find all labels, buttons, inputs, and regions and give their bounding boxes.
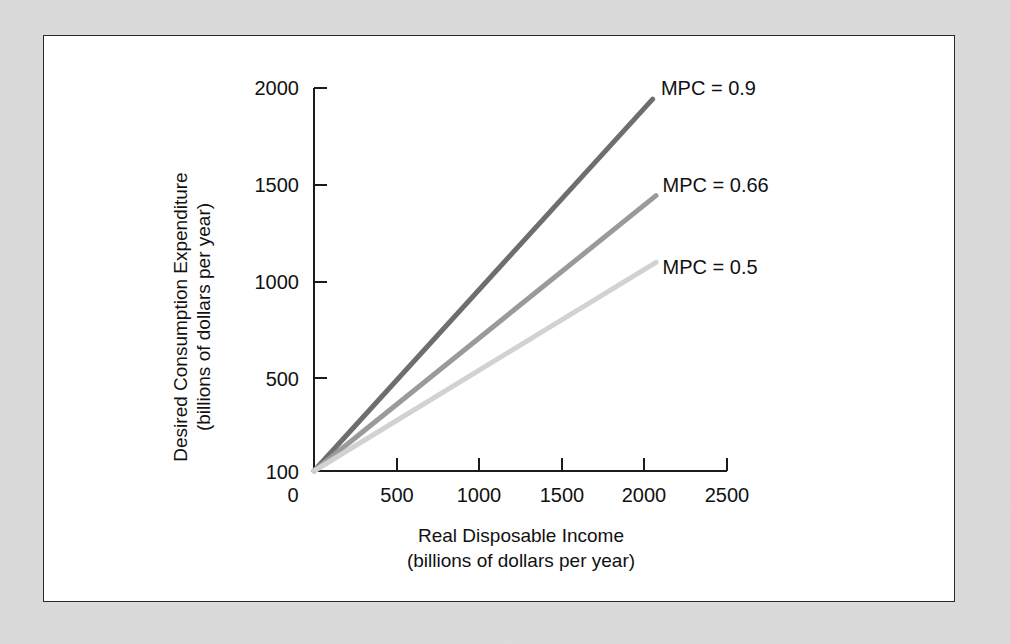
series-label-mpc-0-9: MPC = 0.9: [661, 77, 756, 99]
x-axis-title-line2: (billions of dollars per year): [407, 550, 635, 571]
y-tick-label-100: 100: [266, 461, 299, 483]
x-tick-label-0: 0: [287, 484, 298, 506]
y-tick-label-1500: 1500: [255, 174, 300, 196]
figure-panel: Desired Consumption Expenditure (billion…: [43, 35, 955, 602]
x-tick-label-500: 500: [380, 484, 413, 506]
series-line-mpc-0-5: [314, 262, 656, 471]
series-label-mpc-0-5: MPC = 0.5: [663, 256, 758, 278]
y-tick-label-2000: 2000: [255, 77, 300, 99]
chart-plot-area: Desired Consumption Expenditure (billion…: [44, 36, 954, 601]
x-tick-label-2000: 2000: [622, 484, 667, 506]
y-axis-title-line2: (billions of dollars per year): [193, 203, 214, 431]
consumption-function-chart: Desired Consumption Expenditure (billion…: [44, 36, 956, 603]
y-axis-title-line1: Desired Consumption Expenditure: [170, 172, 191, 461]
x-tick-label-1000: 1000: [457, 484, 502, 506]
series-line-mpc-0-66: [314, 196, 656, 471]
x-tick-label-1500: 1500: [540, 484, 585, 506]
screenshot-root: Desired Consumption Expenditure (billion…: [0, 0, 1010, 644]
x-axis-title-line1: Real Disposable Income: [418, 525, 624, 546]
y-tick-label-500: 500: [266, 368, 299, 390]
y-tick-label-1000: 1000: [255, 271, 300, 293]
series-label-mpc-0-66: MPC = 0.66: [663, 174, 769, 196]
x-tick-label-2500: 2500: [705, 484, 750, 506]
series-line-mpc-0-9: [314, 99, 653, 471]
